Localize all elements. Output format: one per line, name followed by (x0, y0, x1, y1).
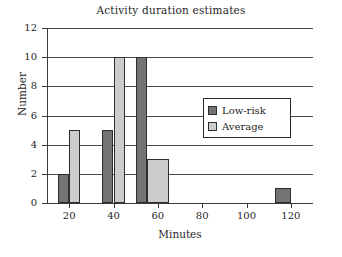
y-tick-mark (42, 86, 47, 87)
x-axis-label: Minutes (47, 228, 313, 240)
gridline (47, 57, 313, 58)
gridline (47, 145, 313, 146)
x-tick-label: 60 (141, 210, 175, 221)
y-tick-mark (42, 57, 47, 58)
y-tick-label: 0 (15, 197, 37, 208)
legend-item-average: Average (208, 118, 286, 134)
x-tick-mark (158, 203, 159, 208)
gridline (47, 86, 313, 87)
bar (58, 174, 69, 203)
x-tick-label: 80 (185, 210, 219, 221)
y-axis-label: Number (16, 54, 28, 134)
x-tick-mark (291, 203, 292, 208)
x-tick-label: 40 (97, 210, 131, 221)
x-tick-label: 20 (52, 210, 86, 221)
chart-title: Activity duration estimates (0, 4, 342, 16)
bar (136, 57, 147, 203)
bar (102, 130, 113, 203)
bar (69, 130, 80, 203)
chart-figure: Activity duration estimates Number Minut… (0, 0, 342, 257)
gridline (47, 174, 313, 175)
bar (275, 188, 291, 203)
gridline (47, 28, 313, 29)
legend-label-low-risk: Low-risk (222, 105, 266, 116)
y-tick-label: 10 (15, 51, 37, 62)
y-tick-mark (42, 174, 47, 175)
x-tick-label: 100 (230, 210, 264, 221)
y-tick-label: 12 (15, 22, 37, 33)
x-tick-mark (247, 203, 248, 208)
y-axis-line (47, 28, 48, 203)
legend-label-average: Average (222, 121, 263, 132)
y-tick-mark (42, 145, 47, 146)
x-axis-line (47, 203, 313, 204)
legend-swatch-low-risk (208, 106, 217, 115)
x-tick-mark (69, 203, 70, 208)
legend-item-low-risk: Low-risk (208, 102, 286, 118)
x-tick-mark (114, 203, 115, 208)
y-tick-label: 6 (15, 110, 37, 121)
bar (114, 57, 125, 203)
x-tick-mark (202, 203, 203, 208)
y-tick-mark (42, 116, 47, 117)
y-tick-mark (42, 28, 47, 29)
legend-swatch-average (208, 122, 217, 131)
y-tick-label: 8 (15, 80, 37, 91)
y-tick-label: 2 (15, 168, 37, 179)
chart-legend: Low-risk Average (203, 98, 291, 138)
x-tick-label: 120 (274, 210, 308, 221)
bar (147, 159, 169, 203)
y-tick-mark (42, 203, 47, 204)
y-tick-label: 4 (15, 139, 37, 150)
